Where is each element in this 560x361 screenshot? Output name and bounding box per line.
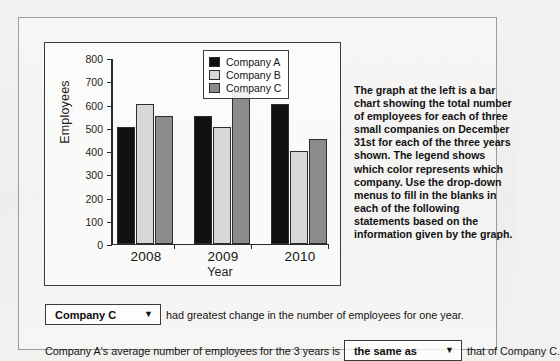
y-axis-tick [107,222,112,223]
x-axis-title: Year [111,265,329,279]
y-axis-tick-label: 600 [85,100,103,111]
dropdown-company-value: Company C [55,309,116,321]
statement-2-text-before: Company A's average number of employees … [45,345,340,357]
dropdown-comparison-value: the same as [354,345,417,357]
legend-swatch-icon [209,83,220,93]
x-axis-tick-label: 2009 [194,249,252,264]
y-axis-tick-label: 400 [85,147,103,158]
chart-description: The graph at the left is a bar chart sho… [354,84,514,241]
y-axis-tick-label: 200 [85,193,103,204]
legend-item: Company C [209,81,281,94]
legend-swatch-icon [209,57,220,67]
statement-1-text: had greatest change in the number of emp… [166,309,464,321]
dropdown-comparison-select[interactable]: the same as ▼ [344,340,462,361]
y-axis-tick [107,129,112,130]
x-axis-tick-label: 2010 [271,249,329,264]
x-axis-line [111,244,329,246]
statement-row-1: Company C ▼ had greatest change in the n… [45,304,464,325]
x-axis-tick [174,244,175,249]
legend-item: Company B [209,68,281,81]
y-axis-tick [107,106,112,107]
statement-row-2: Company A's average number of employees … [45,340,560,361]
y-axis-tick-label: 500 [85,124,103,135]
legend-swatch-icon [209,70,220,80]
bar-company-a-2008 [117,127,135,243]
bar-company-c-2009 [232,92,250,243]
dropdown-company-select[interactable]: Company C ▼ [45,304,161,325]
x-axis-tick-label: 2008 [117,249,175,264]
y-axis-tick-label: 700 [85,77,103,88]
legend-label: Company B [226,69,281,81]
bar-company-b-2009 [213,127,231,243]
chevron-down-icon: ▼ [144,310,153,319]
x-axis-tick [328,244,329,249]
chart-legend: Company ACompany BCompany C [203,50,289,99]
bar-company-a-2010 [271,104,289,244]
bar-company-c-2008 [155,116,173,244]
y-axis-tick-label: 300 [85,170,103,181]
statement-2-text-after: that of Company C. [467,345,560,357]
bar-group-2008: 2008 [117,58,175,244]
y-axis-title: Employees [58,52,72,172]
y-axis-tick-label: 0 [97,240,103,251]
x-axis-tick [251,244,252,249]
y-axis-tick-label: 800 [85,54,103,65]
bar-company-a-2009 [194,116,212,244]
y-axis-tick-label: 100 [85,217,103,228]
y-axis-tick [107,82,112,83]
y-axis-tick [107,245,112,246]
y-axis-tick [107,199,112,200]
legend-label: Company C [226,82,281,94]
bar-chart-panel: Employees 0100200300400500600700800 2008… [44,42,341,286]
legend-label: Company A [226,56,280,68]
y-axis-tick [107,175,112,176]
bar-company-b-2010 [290,151,308,244]
bar-company-b-2008 [136,104,154,244]
exercise-frame: Employees 0100200300400500600700800 2008… [18,17,497,350]
y-axis-tick [107,59,112,60]
legend-item: Company A [209,55,281,68]
bar-company-c-2010 [309,139,327,244]
chevron-down-icon: ▼ [445,346,454,355]
y-axis-tick [107,152,112,153]
